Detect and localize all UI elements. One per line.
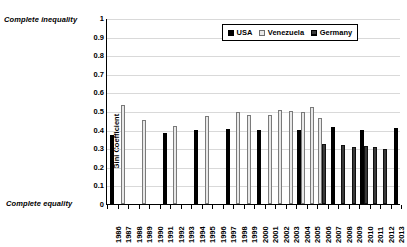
bar-venezuela-2003 <box>289 111 293 204</box>
x-axis-tick-label-2000: 2000 <box>262 226 270 243</box>
x-axis-tick-label-1995: 1995 <box>209 226 217 243</box>
bar-germany-2010 <box>364 146 368 204</box>
legend-label: USA <box>237 28 253 37</box>
bar-germany-2012 <box>383 149 387 204</box>
y-axis-tick-labels: 10.90.80.70.60.50.40.30.20.10 <box>60 0 104 247</box>
x-axis-tick-label-1992: 1992 <box>178 226 186 243</box>
y-axis-tick-label: 0.1 <box>64 182 104 190</box>
x-axis-tick-label-2001: 2001 <box>272 226 280 243</box>
x-axis-tick-label-1987: 1987 <box>125 226 133 243</box>
x-axis-tick-label-2004: 2004 <box>304 226 312 243</box>
bar-venezuela-1999 <box>247 115 251 204</box>
x-axis-tick-mark <box>401 205 402 209</box>
x-axis-tick-label-1990: 1990 <box>157 226 165 243</box>
bar-venezuela-2001 <box>268 115 272 204</box>
x-axis-tick-label-2003: 2003 <box>293 226 301 243</box>
x-axis-tick-label-2012: 2012 <box>388 226 396 243</box>
bar-venezuela-2005 <box>310 107 314 204</box>
x-axis-tick-label-1997: 1997 <box>230 226 238 243</box>
x-axis-tick-label-2006: 2006 <box>325 226 333 243</box>
x-axis-tick-label-2008: 2008 <box>346 226 354 243</box>
x-axis-tick-label-2005: 2005 <box>314 226 322 243</box>
legend-entry-venezuela: Venezuela <box>259 28 304 37</box>
y-axis-tick-label: 0.3 <box>64 145 104 153</box>
x-axis-tick-label-1998: 1998 <box>241 226 249 243</box>
x-axis-tick-label-2010: 2010 <box>367 226 375 243</box>
x-axis-tick-label-2007: 2007 <box>335 226 343 243</box>
bar-venezuela-1998 <box>236 112 240 204</box>
x-axis-tick-label-2002: 2002 <box>283 226 291 243</box>
x-axis-tick-labels: 1986198719881989199019911992199319941995… <box>106 209 400 247</box>
x-axis-tick-label-1989: 1989 <box>146 226 154 243</box>
y-axis-tick-label: 0 <box>64 201 104 209</box>
x-axis-tick-label-2013: 2013 <box>398 226 406 243</box>
x-axis-tick-label-1996: 1996 <box>220 226 228 243</box>
legend-swatch-usa-icon <box>228 30 234 36</box>
x-axis-tick-label-1994: 1994 <box>199 226 207 243</box>
plot-area <box>106 19 400 205</box>
legend-label: Venezuela <box>268 28 304 37</box>
y-axis-tick-label: 1 <box>64 15 104 23</box>
bar-venezuela-2002 <box>278 110 282 204</box>
y-axis-tick-label: 0.5 <box>64 108 104 116</box>
y-axis-tick-label: 0.6 <box>64 89 104 97</box>
x-axis-tick-label-1986: 1986 <box>115 226 123 243</box>
y-axis-tick-label: 0.4 <box>64 127 104 135</box>
bars-container <box>107 19 400 204</box>
legend-swatch-germany-icon <box>311 30 317 36</box>
legend-swatch-venezuela-icon <box>259 30 265 36</box>
legend-entry-usa: USA <box>228 28 252 37</box>
chart-legend: USAVenezuelaGermany <box>222 24 358 41</box>
bar-venezuela-2004 <box>301 112 305 204</box>
legend-label: Germany <box>320 28 353 37</box>
bar-germany-2008 <box>341 145 345 204</box>
y-axis-tick-label: 0.2 <box>64 164 104 172</box>
y-axis-tick-label: 0.7 <box>64 71 104 79</box>
bar-usa-2007 <box>331 127 335 204</box>
x-axis-tick-label-1999: 1999 <box>251 226 259 243</box>
y-axis-tick-label: 0.8 <box>64 52 104 60</box>
gini-coefficient-bar-chart: Complete inequality Complete equality Gi… <box>0 0 407 247</box>
bar-venezuela-1989 <box>142 120 146 204</box>
x-axis-tick-label-1993: 1993 <box>188 226 196 243</box>
y-axis-tick-label: 0.9 <box>64 34 104 42</box>
bar-usa-1997 <box>226 129 230 204</box>
x-axis-tick-label-2009: 2009 <box>356 226 364 243</box>
bar-usa-2000 <box>257 130 261 204</box>
bar-venezuela-1992 <box>173 126 177 204</box>
bar-venezuela-1987 <box>121 105 125 204</box>
x-axis-tick-label-1991: 1991 <box>167 226 175 243</box>
bar-usa-1986 <box>110 135 114 204</box>
x-axis-tick-label-2011: 2011 <box>377 227 385 243</box>
x-axis-tick-label-1988: 1988 <box>136 226 144 243</box>
bar-germany-2009 <box>352 147 356 204</box>
bar-venezuela-1995 <box>205 116 209 204</box>
legend-entry-germany: Germany <box>311 28 352 37</box>
bar-usa-1991 <box>163 133 167 204</box>
bar-usa-1994 <box>194 130 198 204</box>
bar-germany-2006 <box>322 144 326 204</box>
bar-germany-2011 <box>373 147 377 204</box>
bar-usa-2013 <box>394 128 398 204</box>
